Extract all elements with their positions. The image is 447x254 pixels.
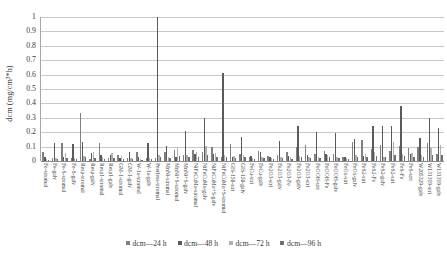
x-tick-label: GIS-150-galv	[237, 163, 246, 225]
legend-label: dcm—72 h	[236, 239, 270, 248]
bar-group	[125, 17, 134, 161]
legend-label: dcm—24 h	[133, 239, 167, 248]
y-tick-label: 0.8	[26, 42, 36, 50]
x-tick-label-text: FeS-stri	[408, 163, 414, 181]
bar	[141, 160, 142, 161]
x-tick-label: FeCu-galv	[256, 163, 265, 225]
bar-group	[97, 17, 106, 161]
y-axis-title-text: dcm (mg/cm²*h)	[5, 65, 14, 121]
bar-group	[172, 17, 181, 161]
x-tick-label: FeOOH-stri	[312, 163, 321, 225]
bar	[57, 159, 58, 161]
x-tick-label-text: Fe-S-stromal	[61, 163, 67, 192]
bar	[207, 155, 208, 161]
bar-group	[257, 17, 266, 161]
x-tick-label: GM-1-stromal	[115, 163, 124, 225]
bar	[329, 157, 330, 161]
x-tick-label: FeS-stri	[406, 163, 415, 225]
bar	[94, 158, 95, 161]
bar	[216, 157, 217, 161]
bar	[404, 156, 405, 161]
bar	[76, 159, 77, 161]
bar-group	[425, 17, 434, 161]
bar-group	[135, 17, 144, 161]
bar	[113, 158, 114, 161]
legend-item[interactable]: dcm—24 h	[126, 239, 166, 248]
x-tick-label-text: W-1a-stromal	[136, 163, 142, 194]
bar-chart: dcm (mg/cm²*h) 10.90.80.70.60.50.40.30.2…	[0, 0, 447, 254]
bar-group	[350, 17, 359, 161]
x-tick-label-text: FeOOH-Fe	[323, 163, 329, 188]
bar-groups	[41, 17, 444, 161]
x-tick-label-text: NiFeCuMo+S-galv	[211, 163, 217, 206]
bar	[104, 159, 105, 161]
bar-group	[322, 17, 331, 161]
bar	[357, 157, 358, 161]
x-tick-label-text: MnNi-stromal	[164, 163, 170, 195]
bar	[310, 158, 311, 161]
legend-item[interactable]: dcm—72 h	[229, 239, 269, 248]
x-tick-label: Fe2O3-stri	[303, 163, 312, 225]
legend-item[interactable]: dcm—48 h	[178, 239, 218, 248]
bar	[376, 156, 377, 161]
bar-group	[360, 17, 369, 161]
x-tick-label: FeOOH-Fe	[321, 163, 330, 225]
x-tick-label: FeOx-galv	[349, 163, 358, 225]
bar	[319, 158, 320, 161]
x-tick-label: W131319-stri	[424, 163, 433, 225]
bar	[198, 157, 199, 161]
bar-group	[50, 17, 59, 161]
bar	[301, 157, 302, 161]
bar	[66, 158, 67, 161]
x-axis-tick-labels: Fe-stromalFe-galvFe-S-stromalFe-S-galvRe…	[40, 163, 443, 225]
plot-area	[40, 17, 444, 161]
y-tick-label: 0.5	[26, 85, 36, 93]
bar	[423, 157, 424, 161]
x-tick-label-text: FeS2-stri	[361, 163, 367, 184]
x-tick-label: Fe2O3-stri	[265, 163, 274, 225]
bar-group	[379, 17, 388, 161]
x-tick-label-text: Fe-galv	[51, 163, 57, 180]
x-tick-label-text: Fe-S-galv	[70, 163, 76, 185]
x-tick-label: FeOOH-galv	[331, 163, 340, 225]
x-tick-label: Fe2O3-galv	[293, 163, 302, 225]
x-tick-label: FeS2-galv	[378, 163, 387, 225]
bar-group	[60, 17, 69, 161]
bar	[157, 17, 158, 161]
bar	[222, 73, 223, 161]
bar-group	[435, 17, 444, 161]
bar-group	[388, 17, 397, 161]
bar-group	[341, 17, 350, 161]
bar-group	[304, 17, 313, 161]
x-tick-label: NiFeCuMo-galv	[199, 163, 208, 225]
bar	[441, 155, 442, 161]
legend-item[interactable]: dcm—96 h	[280, 239, 320, 248]
bar-group	[41, 17, 50, 161]
x-tick-label: Fe-stromal	[40, 163, 49, 225]
bar-group	[79, 17, 88, 161]
x-tick-label-text: Fe2O3-stri	[304, 163, 310, 187]
bar-group	[285, 17, 294, 161]
x-tick-label-text: Fe2O3-stri	[267, 163, 273, 187]
x-tick-label: GM-1-galv	[124, 163, 133, 225]
x-tick-label-text: GIS-150-stri	[229, 163, 235, 191]
x-tick-label-text: FeOx-galv	[351, 163, 357, 187]
x-tick-label: NiFeCuMo+S-galv	[209, 163, 218, 225]
x-tick-label: W-1a-stromal	[134, 163, 143, 225]
y-axis-title: dcm (mg/cm²*h)	[2, 38, 16, 148]
x-tick-label-text: FeS2-Fe	[370, 163, 376, 182]
x-tick-label: Resp1-galv	[106, 163, 115, 225]
legend-swatch	[229, 241, 233, 245]
x-tick-label-text: FeCu-galv	[258, 163, 264, 187]
bar	[132, 159, 133, 161]
bar	[413, 157, 414, 161]
x-tick-label-text: W131319-stri	[426, 163, 432, 194]
x-tick-label-text: Resp-galv	[89, 163, 95, 186]
y-tick-label: 1	[32, 13, 36, 21]
bar-group	[154, 17, 163, 161]
y-tick-label: 0.1	[26, 143, 36, 151]
x-tick-label-text: NiFeCuMo-stromal	[192, 163, 198, 207]
bar-group	[332, 17, 341, 161]
bar-group	[313, 17, 322, 161]
bar-group	[397, 17, 406, 161]
